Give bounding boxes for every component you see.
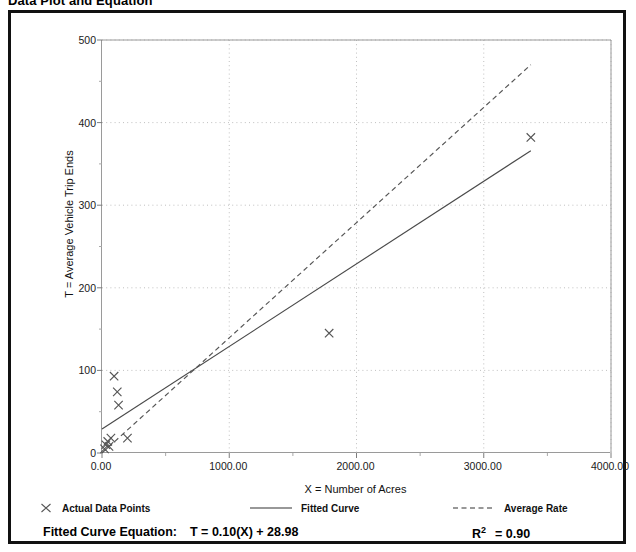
legend-item-actual-data-points: Actual Data Points <box>39 497 150 519</box>
x-marker-icon <box>39 502 53 514</box>
figure-frame: T = Average Vehicle Trip Ends 0100200300… <box>8 10 626 544</box>
x-tick-label: 1000.00 <box>209 460 247 472</box>
y-tick-label: 0 <box>90 447 96 459</box>
x-tick-label: 4000.00 <box>591 460 629 472</box>
legend-item-average-rate: Average Rate <box>453 497 568 519</box>
y-axis-tick-labels: 0100200300400500 <box>63 40 96 453</box>
r-squared-value: R2 = 0.90 <box>472 525 530 541</box>
x-tick-label: 2000.00 <box>337 460 375 472</box>
legend-item-fitted-curve: Fitted Curve <box>250 497 359 519</box>
equation-prefix: Fitted Curve Equation: <box>43 525 177 539</box>
legend-label-average-rate: Average Rate <box>504 503 568 514</box>
r-squared-exponent: 2 <box>481 525 486 535</box>
y-tick-label: 200 <box>78 282 96 294</box>
legend-label-fitted-curve: Fitted Curve <box>301 503 359 514</box>
chart-legend: Actual Data Points Fitted Curve Average … <box>25 497 615 519</box>
equation-row: Fitted Curve Equation: T = 0.10(X) + 28.… <box>25 525 619 549</box>
y-tick-label: 500 <box>78 34 96 46</box>
y-tick-label: 300 <box>78 199 96 211</box>
x-axis-tick-labels: 0.001000.002000.003000.004000.00 <box>101 460 610 476</box>
r-squared-number: = 0.90 <box>495 527 530 541</box>
r-squared-symbol: R <box>472 527 481 541</box>
x-tick-label: 0.00 <box>91 460 111 472</box>
x-axis-title: X = Number of Acres <box>101 483 610 495</box>
legend-label-actual-data-points: Actual Data Points <box>62 503 150 514</box>
plot-area <box>101 40 610 453</box>
gridlines <box>102 40 611 453</box>
data-points <box>100 133 535 453</box>
y-tick-label: 400 <box>78 117 96 129</box>
solid-line-icon <box>250 502 292 514</box>
plot-svg <box>102 40 611 453</box>
dashed-line-icon <box>453 502 495 514</box>
y-tick-label: 100 <box>78 364 96 376</box>
fitted-curve-equation: Fitted Curve Equation: T = 0.10(X) + 28.… <box>43 525 298 539</box>
axis-ticks <box>97 40 611 458</box>
page-title: Data Plot and Equation <box>8 0 152 8</box>
x-tick-label: 3000.00 <box>464 460 502 472</box>
equation-value: T = 0.10(X) + 28.98 <box>190 525 298 539</box>
